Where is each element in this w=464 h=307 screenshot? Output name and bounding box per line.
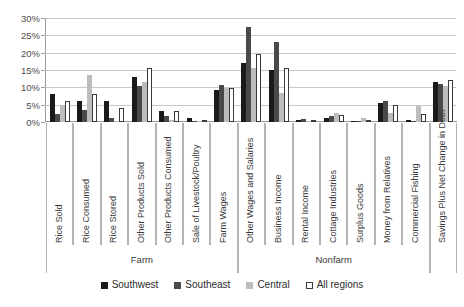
bar bbox=[448, 80, 453, 122]
legend-item[interactable]: All regions bbox=[306, 280, 364, 290]
legend-label: Southwest bbox=[112, 280, 159, 290]
section-label: Nonfarm bbox=[315, 254, 351, 265]
section-cell: Farm bbox=[46, 245, 238, 273]
category-cell: Other Products Consumed bbox=[156, 123, 183, 245]
category-cell: Other Wages and Salaries bbox=[238, 123, 265, 245]
legend-item[interactable]: Central bbox=[246, 280, 289, 290]
category-cell: Farm Wages bbox=[210, 123, 237, 245]
legend-label: All regions bbox=[317, 280, 364, 290]
chart-legend: SouthwestSoutheastCentralAll regions bbox=[0, 280, 464, 290]
bar bbox=[65, 101, 70, 122]
bar-group bbox=[73, 18, 100, 122]
category-label: Sale of Livestock/Poultry bbox=[192, 144, 201, 243]
bar bbox=[92, 94, 97, 122]
bar-group bbox=[265, 18, 292, 122]
category-label: Farm Wages bbox=[219, 192, 228, 243]
category-cell: Surplus Goods bbox=[347, 123, 374, 245]
y-axis-tick-label: 10% bbox=[2, 83, 40, 93]
category-cell: Other Products Sold bbox=[128, 123, 155, 245]
category-cell: Savings Plus Net Change in Debt bbox=[430, 123, 457, 245]
bar bbox=[284, 68, 289, 122]
section-labels-layer: FarmNonfarm bbox=[46, 245, 457, 273]
section-cell: Nonfarm bbox=[238, 245, 430, 273]
bar bbox=[202, 120, 207, 122]
section-label: Farm bbox=[131, 254, 153, 265]
category-cell: Business Income bbox=[265, 123, 292, 245]
category-label: Surplus Goods bbox=[356, 183, 365, 243]
bar-group bbox=[347, 18, 374, 122]
bar bbox=[229, 88, 234, 122]
category-cell: Rice Sold bbox=[46, 123, 73, 245]
category-cell: Rental Income bbox=[293, 123, 320, 245]
category-label: Business Income bbox=[274, 174, 283, 243]
category-cell: Sale of Livestock/Poultry bbox=[183, 123, 210, 245]
y-tick-mark bbox=[41, 87, 45, 88]
y-axis-tick-label: 5% bbox=[2, 101, 40, 111]
category-label: Money from Relatives bbox=[383, 156, 392, 243]
y-tick-mark bbox=[41, 53, 45, 54]
bar bbox=[366, 120, 371, 122]
y-tick-mark bbox=[41, 105, 45, 106]
bar-group bbox=[375, 18, 402, 122]
category-cell: Rice Stored bbox=[101, 123, 128, 245]
category-label: Rice Stored bbox=[109, 196, 118, 243]
y-tick-mark bbox=[41, 35, 45, 36]
category-cell: Commercial Fishing bbox=[402, 123, 429, 245]
bar bbox=[147, 68, 152, 122]
legend-swatch-icon bbox=[101, 282, 108, 289]
legend-item[interactable]: Southeast bbox=[174, 280, 230, 290]
category-label: Rice Consumed bbox=[82, 179, 91, 243]
y-axis-tick-label: 30% bbox=[2, 14, 40, 24]
legend-swatch-icon bbox=[174, 282, 181, 289]
category-cell: Money from Relatives bbox=[375, 123, 402, 245]
category-label: Rice Sold bbox=[55, 204, 64, 243]
y-axis-tick-label: 0% bbox=[2, 118, 40, 128]
bar-group bbox=[156, 18, 183, 122]
category-label: Other Products Sold bbox=[137, 162, 146, 243]
bar bbox=[311, 120, 316, 122]
y-tick-mark bbox=[41, 122, 45, 123]
y-axis-tick-label: 15% bbox=[2, 66, 40, 76]
bar bbox=[339, 115, 344, 122]
bar-group bbox=[101, 18, 128, 122]
legend-item[interactable]: Southwest bbox=[101, 280, 159, 290]
y-axis-tick-label: 20% bbox=[2, 49, 40, 59]
category-labels-layer: Rice SoldRice ConsumedRice StoredOther P… bbox=[46, 123, 457, 245]
bars-layer bbox=[46, 18, 457, 122]
bar-group bbox=[183, 18, 210, 122]
bar-group bbox=[238, 18, 265, 122]
legend-swatch-icon bbox=[246, 282, 253, 289]
bar-group bbox=[210, 18, 237, 122]
category-label: Savings Plus Net Change in Debt bbox=[438, 109, 447, 243]
y-axis-tick-label: 25% bbox=[2, 31, 40, 41]
bar-group bbox=[320, 18, 347, 122]
bar bbox=[393, 105, 398, 122]
category-cell: Rice Consumed bbox=[73, 123, 100, 245]
y-tick-mark bbox=[41, 70, 45, 71]
bar bbox=[421, 114, 426, 122]
legend-label: Southeast bbox=[185, 280, 230, 290]
legend-label: Central bbox=[257, 280, 289, 290]
bar-group bbox=[430, 18, 457, 122]
section-cell bbox=[430, 245, 457, 273]
bar-group bbox=[128, 18, 155, 122]
category-cell: Cottage Industries bbox=[320, 123, 347, 245]
y-tick-mark bbox=[41, 18, 45, 19]
category-label: Cottage Industries bbox=[329, 170, 338, 243]
bar bbox=[119, 108, 124, 122]
bar-group bbox=[293, 18, 320, 122]
bar-group bbox=[46, 18, 73, 122]
category-label: Other Products Consumed bbox=[164, 136, 173, 243]
legend-swatch-icon bbox=[306, 282, 313, 289]
category-label: Other Wages and Salaries bbox=[246, 138, 255, 243]
category-label: Rental Income bbox=[301, 185, 310, 243]
bar-group bbox=[402, 18, 429, 122]
grouped-bar-chart: 0%5%10%15%20%25%30% Rice SoldRice Consum… bbox=[0, 0, 464, 307]
bar bbox=[174, 111, 179, 122]
category-label: Commercial Fishing bbox=[411, 163, 420, 243]
bar bbox=[256, 54, 261, 122]
